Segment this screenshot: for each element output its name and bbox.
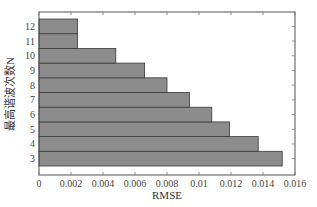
- x-tick-label: 0.002: [60, 178, 83, 189]
- y-tick-label: 5: [30, 124, 35, 135]
- y-tick-label: 12: [25, 21, 35, 32]
- bar-n-3: [39, 151, 282, 166]
- x-tick-label: 0.004: [92, 178, 115, 189]
- y-tick-label: 11: [25, 36, 35, 47]
- bar-n-9: [39, 63, 145, 78]
- x-tick-label: 0.008: [156, 178, 179, 189]
- bar-n-6: [39, 107, 212, 122]
- y-axis-label: 最高谐波次数N: [3, 57, 16, 131]
- y-tick-label: 7: [30, 94, 35, 105]
- x-tick-label: 0.016: [284, 178, 307, 189]
- bar-n-4: [39, 137, 258, 152]
- x-tick-label: 0.012: [220, 178, 243, 189]
- bar-n-10: [39, 48, 116, 63]
- bar-n-11: [39, 34, 77, 49]
- x-tick-label: 0.006: [124, 178, 147, 189]
- bar-n-8: [39, 78, 167, 93]
- x-axis-label: RMSE: [152, 189, 182, 201]
- x-tick-label: 0.01: [190, 178, 208, 189]
- bar-n-5: [39, 122, 229, 137]
- bar-n-12: [39, 19, 77, 34]
- bar-n-7: [39, 93, 189, 108]
- rmse-bar-chart: 00.0020.0040.0060.0080.010.0120.0140.016…: [0, 0, 317, 207]
- x-tick-label: 0.014: [252, 178, 275, 189]
- y-tick-label: 9: [30, 65, 35, 76]
- y-tick-label: 6: [30, 109, 35, 120]
- y-tick-label: 3: [30, 153, 35, 164]
- x-tick-label: 0: [37, 178, 42, 189]
- y-tick-label: 8: [30, 80, 35, 91]
- y-tick-label: 10: [25, 50, 35, 61]
- bars-group: [39, 19, 282, 166]
- y-tick-label: 4: [30, 138, 35, 149]
